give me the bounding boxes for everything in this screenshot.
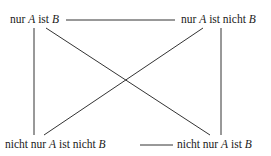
- node-top-left: nur A ist B: [10, 14, 59, 26]
- node-text: ist: [228, 138, 245, 150]
- node-text: ist nicht: [206, 13, 249, 25]
- edge-diagonal-tr-bl: [44, 28, 203, 135]
- node-text: nur: [10, 13, 28, 25]
- node-bottom-left: nicht nur A ist nicht B: [5, 139, 106, 151]
- node-text: ist: [35, 13, 52, 25]
- node-text: nur: [181, 13, 199, 25]
- variable-b: B: [245, 138, 252, 150]
- node-text: nicht nur: [5, 138, 49, 150]
- variable-b: B: [249, 13, 256, 25]
- edge-diagonal-tl-br: [46, 28, 210, 135]
- variable-b: B: [52, 13, 59, 25]
- node-top-right: nur A ist nicht B: [181, 14, 256, 26]
- variable-b: B: [99, 138, 106, 150]
- node-text: nicht nur: [177, 138, 221, 150]
- node-text: ist nicht: [56, 138, 99, 150]
- node-bottom-right: nicht nur A ist B: [177, 139, 252, 151]
